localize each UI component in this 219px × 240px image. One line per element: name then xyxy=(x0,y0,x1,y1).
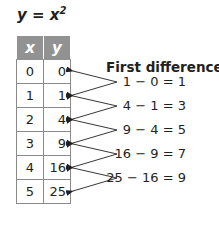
difference-3: 9 − 4 = 5 xyxy=(123,122,186,137)
arrow-pair-4 xyxy=(73,144,117,167)
difference-2: 4 − 1 = 3 xyxy=(123,98,186,113)
first-differences-title: First differences xyxy=(106,59,219,75)
arrow-pair-3 xyxy=(73,120,117,143)
difference-4: 16 − 9 = 7 xyxy=(115,146,186,161)
difference-5: 25 − 16 = 9 xyxy=(106,170,186,185)
difference-1: 1 − 0 = 1 xyxy=(123,74,186,89)
arrow-pair-2 xyxy=(73,96,117,119)
